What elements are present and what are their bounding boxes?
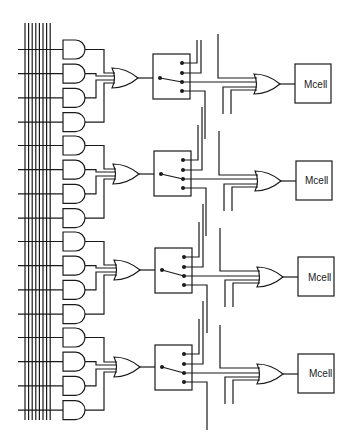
or-gate-1 [112, 68, 138, 88]
steering-switch-3 [155, 248, 192, 293]
route-in-wire [231, 90, 257, 114]
logic-blocks [18, 34, 334, 430]
and-to-or-wire [85, 179, 116, 218]
and-gate [63, 232, 85, 251]
and-gate [63, 209, 85, 228]
route-in-wire [219, 131, 258, 175]
and-gate [63, 352, 85, 371]
and-gate [63, 113, 85, 132]
and-gate [63, 136, 85, 155]
and-to-or-wire [85, 170, 116, 172]
and-to-or-wire [85, 266, 117, 268]
and-gate [63, 305, 85, 324]
switch-box [153, 54, 190, 99]
mcell-labels: Mcell Mcell Mcell Mcell [304, 79, 332, 379]
and-to-or-wire [85, 242, 117, 266]
route-in-wire [220, 228, 260, 271]
and-gate [63, 64, 85, 83]
and-gate [63, 160, 85, 179]
or-gate-4 [114, 357, 140, 377]
and-to-or-wire [85, 146, 116, 170]
route-in-wire [225, 280, 260, 307]
route-in-wire [232, 187, 258, 211]
steering-switch-1 [153, 54, 190, 99]
output-or-gate-2 [255, 171, 281, 191]
and-gate [63, 184, 85, 203]
and-gate [63, 256, 85, 275]
and-gate [63, 40, 85, 59]
mcell-label-2: Mcell [305, 175, 328, 186]
and-gate [63, 376, 85, 395]
and-gate [63, 401, 85, 420]
mcell-label-3: Mcell [308, 272, 331, 283]
circuit-diagram: Mcell Mcell Mcell Mcell [0, 0, 359, 432]
and-gate [63, 88, 85, 107]
or-gate-2 [113, 164, 139, 184]
steering-switch-4 [155, 345, 192, 390]
mcell-label-4: Mcell [309, 368, 332, 379]
route-in-wire [233, 283, 260, 307]
route-in-wire [233, 380, 260, 404]
and-gate [63, 280, 85, 299]
and-to-or-wire [85, 338, 117, 363]
and-to-or-wire [85, 74, 115, 76]
output-or-gate-4 [257, 364, 283, 384]
output-or-gate-3 [257, 267, 283, 287]
route-in-wire [225, 377, 260, 404]
input-bus [25, 23, 50, 420]
route-in-wire [223, 87, 257, 114]
logic-block-1 [18, 34, 331, 139]
route-in-wire [218, 34, 257, 78]
route-in-wire [224, 184, 258, 211]
route-in-wire [220, 325, 260, 368]
and-to-or-wire [85, 372, 117, 410]
and-to-or-wire [85, 275, 117, 314]
and-to-or-wire [85, 50, 115, 74]
or-gate-3 [114, 260, 140, 280]
output-or-gate-1 [254, 74, 280, 94]
and-to-or-wire [85, 83, 115, 122]
mcell-label-1: Mcell [304, 79, 327, 90]
and-gate [63, 328, 85, 347]
steering-switch-2 [154, 151, 191, 196]
